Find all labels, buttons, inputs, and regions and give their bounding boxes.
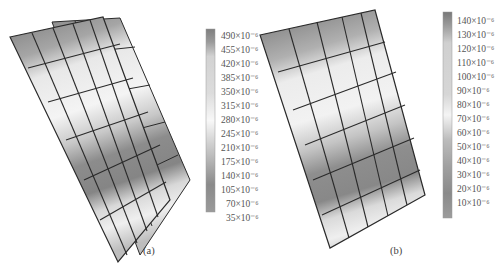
colorbar-b-label: 30×10⁻⁶	[457, 171, 490, 181]
colorbar-a-label: 280×10⁻⁶	[221, 116, 258, 126]
strain-contour-figure: 490×10⁻⁶ 455×10⁻⁶ 420×10⁻⁶ 385×10⁻⁶ 350×…	[0, 0, 496, 269]
colorbar-a-label: 210×10⁻⁶	[221, 144, 258, 154]
colorbar-b	[443, 12, 452, 218]
colorbar-a-label: 420×10⁻⁶	[221, 60, 258, 70]
colorbar-a-label: 350×10⁻⁶	[221, 88, 258, 98]
colorbar-b-label: 20×10⁻⁶	[457, 185, 490, 195]
colorbar-b-label: 120×10⁻⁶	[457, 45, 494, 55]
colorbar-a-label: 70×10⁻⁶	[226, 200, 259, 210]
colorbar-b-label: 50×10⁻⁶	[457, 143, 490, 153]
colorbar-b-label: 70×10⁻⁶	[457, 115, 490, 125]
colorbar-a	[206, 29, 215, 212]
colorbar-b-label: 40×10⁻⁶	[457, 157, 490, 167]
plate-a-front	[10, 17, 170, 262]
colorbar-b-label: 90×10⁻⁶	[457, 87, 490, 97]
colorbar-a-label: 105×10⁻⁶	[221, 186, 258, 196]
colorbar-b-label: 60×10⁻⁶	[457, 129, 490, 139]
colorbar-a-label: 175×10⁻⁶	[221, 158, 258, 168]
colorbar-b-label: 10×10⁻⁶	[457, 199, 490, 209]
plate-b	[260, 10, 425, 248]
colorbar-a-label: 315×10⁻⁶	[221, 102, 258, 112]
colorbar-b-label: 110×10⁻⁶	[457, 59, 494, 69]
colorbar-a-label: 385×10⁻⁶	[221, 74, 258, 84]
colorbar-a-label: 140×10⁻⁶	[221, 172, 258, 182]
colorbar-a-label: 245×10⁻⁶	[221, 130, 258, 140]
colorbar-a-label: 490×10⁻⁶	[221, 32, 258, 42]
colorbar-b-label: 80×10⁻⁶	[457, 101, 490, 111]
colorbar-b-label: 140×10⁻⁶	[457, 17, 494, 27]
colorbar-b-label: 100×10⁻⁶	[457, 73, 494, 83]
colorbar-a-label: 35×10⁻⁶	[226, 214, 259, 224]
colorbar-a-label: 455×10⁻⁶	[221, 46, 258, 56]
caption-a: (a)	[143, 245, 155, 256]
colorbar-b-label: 130×10⁻⁶	[457, 31, 494, 41]
caption-b: (b)	[390, 245, 402, 256]
